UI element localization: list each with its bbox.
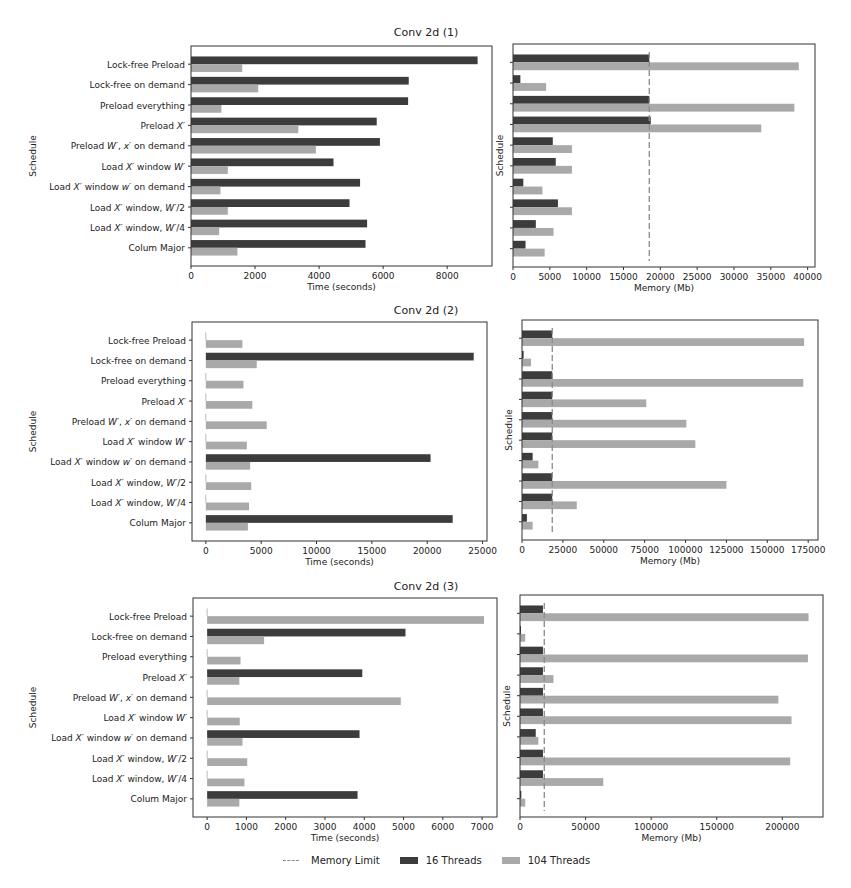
light-swatch-icon: [502, 857, 520, 864]
axes-frame: [513, 44, 815, 267]
y-axis-label: Schedule: [504, 409, 514, 451]
x-tick-label: 5000: [538, 272, 561, 282]
x-tick-label: 15000: [609, 272, 638, 282]
category-label: Preload everything: [101, 376, 186, 386]
bar-16-threads: [206, 353, 474, 361]
bar-104-threads: [513, 62, 799, 70]
bar-104-threads: [207, 616, 484, 624]
legend-label: Memory Limit: [311, 855, 380, 866]
bar-104-threads: [206, 381, 244, 389]
x-tick-label: 8000: [436, 271, 459, 281]
legend-label: 16 Threads: [426, 855, 482, 866]
chart-title: Conv 2d (2): [394, 304, 458, 317]
x-tick-label: 0: [188, 271, 194, 281]
bar-104-threads: [520, 613, 809, 621]
x-tick-label: 125000: [709, 545, 744, 555]
category-label: Lock-free Preload: [107, 60, 185, 70]
bar-16-threads: [207, 730, 359, 738]
y-axis-label: Schedule: [502, 685, 512, 727]
bar-16-threads: [520, 647, 543, 655]
bar-104-threads: [206, 442, 247, 450]
bar-104-threads: [513, 228, 554, 236]
bar-104-threads: [191, 85, 258, 93]
bar-104-threads: [206, 401, 252, 409]
bar-16-threads: [513, 75, 520, 83]
category-label: Lock-free on demand: [91, 356, 186, 366]
bar-16-threads: [522, 453, 533, 461]
bar-16-threads: [191, 220, 367, 228]
x-axis-label: Memory (Mb): [642, 833, 702, 843]
bar-16-threads: [191, 158, 333, 166]
category-label: Preload everything: [102, 652, 187, 662]
category-label: Load X′ window W′: [102, 162, 186, 172]
chart-panel-6: 050000100000150000200000Memory (Mb)Sched…: [502, 595, 823, 843]
x-tick-label: 40000: [793, 272, 822, 282]
x-tick-label: 2000: [244, 271, 267, 281]
bar-104-threads: [522, 379, 803, 387]
bar-104-threads: [207, 677, 239, 685]
chart-title: Conv 2d (1): [394, 26, 458, 39]
bar-16-threads: [191, 118, 377, 126]
bar-104-threads: [520, 696, 778, 704]
bar-104-threads: [191, 64, 242, 72]
bar-16-threads: [513, 54, 649, 62]
category-label: Load X′ window, W′/2: [90, 203, 185, 213]
x-tick-label: 4000: [308, 271, 331, 281]
x-tick-label: 0: [203, 546, 209, 556]
x-tick-label: 1000: [235, 822, 258, 832]
bar-104-threads: [520, 634, 525, 642]
category-label: Preload X′: [142, 673, 187, 683]
x-tick-label: 200000: [765, 822, 800, 832]
bar-16-threads: [522, 473, 552, 481]
y-axis-label: Schedule: [28, 410, 38, 452]
x-tick-label: 50000: [589, 545, 618, 555]
bar-104-threads: [206, 482, 251, 490]
category-label: Preload X′: [141, 397, 186, 407]
bar-16-threads: [513, 241, 526, 249]
bar-104-threads: [520, 778, 603, 786]
x-axis-label: Memory (Mb): [634, 283, 694, 293]
bar-16-threads: [513, 96, 649, 104]
category-label: Lock-free Preload: [108, 336, 186, 346]
bar-104-threads: [513, 187, 542, 195]
bar-16-threads: [522, 432, 552, 440]
x-tick-label: 100000: [634, 822, 669, 832]
bar-16-threads: [520, 688, 543, 696]
bar-104-threads: [513, 145, 572, 153]
category-label: Load X′ window W′: [104, 713, 188, 723]
x-tick-label: 75000: [630, 545, 659, 555]
x-axis-label: Time (seconds): [306, 282, 376, 292]
bar-104-threads: [191, 146, 316, 154]
chart-panel-5: Conv 2d (3)Lock-free PreloadLock-free on…: [28, 580, 497, 843]
bar-104-threads: [191, 187, 220, 195]
bar-16-threads: [513, 117, 651, 125]
bar-104-threads: [522, 420, 686, 428]
x-tick-label: 5000: [392, 822, 415, 832]
category-label: Lock-free Preload: [109, 612, 187, 622]
bar-16-threads: [191, 179, 360, 187]
x-tick-label: 25000: [683, 272, 712, 282]
x-tick-label: 15000: [358, 546, 387, 556]
legend-104-threads: 104 Threads: [502, 855, 590, 866]
chart-panel-3: Conv 2d (2)Lock-free PreloadLock-free on…: [28, 304, 497, 567]
x-tick-label: 20000: [646, 272, 675, 282]
bar-16-threads: [207, 791, 357, 799]
y-axis-label: Schedule: [495, 134, 505, 176]
bar-16-threads: [191, 56, 478, 64]
x-tick-label: 0: [510, 272, 516, 282]
bar-104-threads: [191, 227, 219, 235]
bar-104-threads: [207, 779, 244, 787]
dark-swatch-icon: [400, 857, 418, 864]
category-label: Load X′ window, W′/2: [91, 478, 186, 488]
bar-104-threads: [207, 697, 401, 705]
x-tick-label: 0: [517, 822, 523, 832]
bar-16-threads: [191, 77, 409, 85]
bar-104-threads: [207, 799, 239, 807]
bar-16-threads: [520, 729, 536, 737]
chart-panel-4: 0250005000075000100000125000150000175000…: [504, 320, 826, 566]
x-axis-label: Memory (Mb): [640, 556, 700, 566]
bar-104-threads: [207, 758, 247, 766]
x-tick-label: 7000: [471, 822, 494, 832]
category-label: Preload X′: [140, 121, 185, 131]
bar-16-threads: [520, 708, 543, 716]
